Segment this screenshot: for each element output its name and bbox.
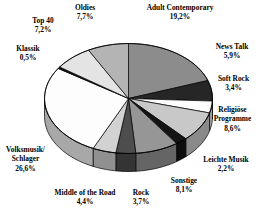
slice-label-value: 5,9% bbox=[205, 51, 259, 60]
slice-label-value: 8,6% bbox=[206, 124, 259, 133]
slice-label-value: 7,2% bbox=[21, 25, 65, 34]
slice-label-value: 3,7% bbox=[122, 197, 160, 206]
slice-label-name: Oldies bbox=[64, 3, 106, 12]
slice-label-name: Soft Rock bbox=[208, 74, 259, 83]
slice-label-klassik: Klassik 0,5% bbox=[7, 44, 49, 63]
slice-label-name-2: Schlager bbox=[0, 154, 51, 163]
slice-label-news-talk: News Talk 5,9% bbox=[205, 42, 259, 61]
slice-label-name: Top 40 bbox=[21, 16, 65, 25]
pie-side-rock bbox=[116, 153, 136, 172]
pie-chart-figure: Adult Contemporary 19,2% News Talk 5,9% … bbox=[0, 0, 259, 212]
slice-label-leichte-musik: Leichte Musik 2,2% bbox=[193, 155, 259, 174]
slice-label-top-40: Top 40 7,2% bbox=[21, 16, 65, 35]
slice-label-value: 7,7% bbox=[64, 12, 106, 21]
slice-label-name: Adult Contemporary bbox=[130, 3, 230, 12]
slice-label-value: 3,4% bbox=[208, 83, 259, 92]
slice-label-adult-contemporary: Adult Contemporary 19,2% bbox=[130, 3, 230, 22]
slice-label-value: 2,2% bbox=[193, 164, 259, 173]
slice-label-rock: Rock 3,7% bbox=[122, 188, 160, 207]
slice-label-soft-rock: Soft Rock 3,4% bbox=[208, 74, 259, 93]
slice-label-value: 19,2% bbox=[130, 12, 230, 21]
slice-label-name: Volksmusik/ bbox=[0, 145, 51, 154]
slice-label-oldies: Oldies 7,7% bbox=[64, 3, 106, 22]
slice-label-name: Middle of the Road bbox=[46, 188, 124, 197]
slice-label-value: 8,1% bbox=[160, 185, 208, 194]
slice-label-name: Rock bbox=[122, 188, 160, 197]
slice-label-name-2: Programme bbox=[206, 114, 259, 123]
pie-top-faces bbox=[45, 44, 213, 154]
slice-label-value: 26,6% bbox=[0, 164, 51, 173]
slice-label-name: Religiöse bbox=[206, 105, 259, 114]
slice-label-sonstige: Sonstige 8,1% bbox=[160, 176, 208, 195]
slice-label-name: Leichte Musik bbox=[193, 155, 259, 164]
slice-label-name: Klassik bbox=[7, 44, 49, 53]
slice-label-value: 4,4% bbox=[46, 197, 124, 206]
slice-label-religiose-programme: Religiöse Programme 8,6% bbox=[206, 105, 259, 133]
slice-label-volksmusik-schlager: Volksmusik/ Schlager 26,6% bbox=[0, 145, 51, 173]
slice-label-name: Sonstige bbox=[160, 176, 208, 185]
slice-label-middle-of-the-road: Middle of the Road 4,4% bbox=[46, 188, 124, 207]
slice-label-name: News Talk bbox=[205, 42, 259, 51]
slice-label-value: 0,5% bbox=[7, 53, 49, 62]
